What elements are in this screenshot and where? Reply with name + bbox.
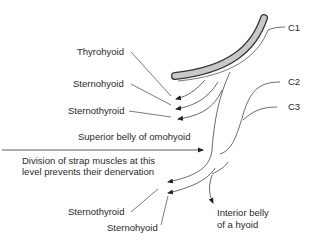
label-thyrohyoid: Thyrohyoid (77, 46, 124, 57)
label-sternothyroid-upper: Sternothyroid (68, 105, 125, 116)
label-sternohyoid-lower: Sternohyoid (107, 222, 158, 233)
label-division-line2: level prevents their denervation (22, 166, 154, 177)
label-c3: C3 (288, 101, 300, 112)
label-division-line1: Division of strap muscles at this (22, 155, 155, 166)
label-sternothyroid-lower: Sternothyroid (68, 206, 125, 217)
label-superior-belly-omohyoid: Superior belly of omohyoid (78, 131, 190, 142)
ansa-cervicalis-diagram (0, 0, 321, 245)
label-inferior-belly-line2: of a hyoid (217, 219, 258, 230)
label-c1: C1 (288, 22, 300, 33)
label-c2: C2 (288, 76, 300, 87)
label-inferior-belly-line1: Interior belly (217, 207, 269, 218)
label-sternohyoid-upper: Sternohyoid (73, 78, 124, 89)
